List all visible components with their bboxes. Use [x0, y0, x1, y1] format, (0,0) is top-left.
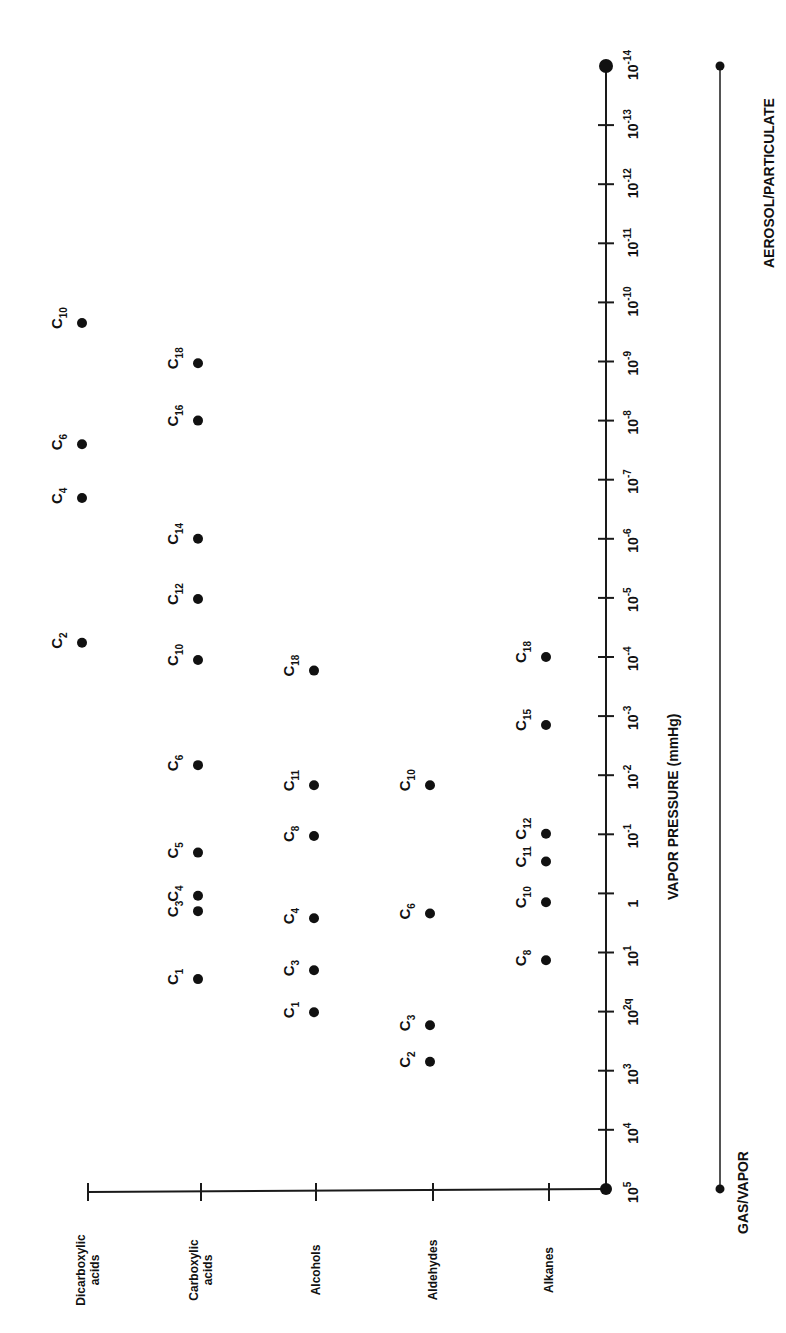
- data-point: [193, 906, 203, 916]
- aerosol-particulate-label: AEROSOL/PARTICULATE: [761, 98, 777, 268]
- point-label: C10: [512, 886, 533, 908]
- gas-end-dot: [716, 1184, 725, 1193]
- point-label: C8: [280, 825, 301, 842]
- point-label: C4: [164, 885, 185, 902]
- pressure-tick-label: 10-6: [622, 528, 641, 553]
- point-label: C18: [164, 347, 185, 369]
- point-label: C10: [396, 769, 417, 791]
- category-axis: [88, 1183, 606, 1201]
- data-point: [193, 760, 203, 770]
- data-point: [77, 318, 87, 328]
- pressure-tick-label: 10-10: [622, 286, 641, 316]
- data-point: [425, 1057, 435, 1067]
- series-alcohols: C1C3C4C8C11C18: [280, 654, 319, 1018]
- pressure-tick-label: 10-3: [622, 705, 641, 730]
- point-label: C2: [396, 1051, 417, 1068]
- pressure-tick-label: 10-13: [622, 109, 641, 139]
- pressure-tick-label: 104: [622, 1122, 641, 1144]
- point-label: C4: [48, 487, 69, 504]
- data-point: [193, 848, 203, 858]
- point-label: C12: [512, 817, 533, 839]
- series-carboxylic: C1C3C4C5C6C10C12C14C16C18: [164, 347, 203, 985]
- point-label: C8: [512, 949, 533, 966]
- data-point: [309, 913, 319, 923]
- category-axis-line: [88, 1189, 606, 1192]
- point-label: C6: [164, 754, 185, 771]
- phase-bar: [716, 62, 725, 1194]
- point-label: C6: [396, 903, 417, 920]
- point-label: C3: [280, 959, 301, 976]
- data-point: [425, 1020, 435, 1030]
- data-point: [541, 652, 551, 662]
- point-label: C10: [48, 307, 69, 329]
- data-point: [541, 856, 551, 866]
- gas-vapor-label: GAS/VAPOR: [735, 1151, 751, 1234]
- data-point: [425, 780, 435, 790]
- data-point: [193, 416, 203, 426]
- pressure-tick-label: 10-12: [622, 168, 641, 198]
- data-point: [193, 534, 203, 544]
- point-label: C4: [280, 907, 301, 924]
- category-label: Dicarboxylic: [74, 1234, 88, 1306]
- data-point: [309, 1007, 319, 1017]
- data-point: [309, 831, 319, 841]
- axis-end-dot: [599, 59, 613, 73]
- pressure-tick-label: 10-11: [622, 227, 641, 257]
- category-label: Aldehydes: [426, 1239, 440, 1300]
- category-labels: DicarboxylicacidsCarboxylicacidsAlcohols…: [74, 1234, 556, 1306]
- data-point: [309, 666, 319, 676]
- point-label: C15: [512, 709, 533, 731]
- point-label: C11: [512, 846, 533, 868]
- data-point: [193, 594, 203, 604]
- pressure-tick-label: 10-4: [622, 646, 641, 671]
- point-label: C3: [164, 900, 185, 917]
- pressure-tick-label: 1: [625, 899, 641, 907]
- vapor-pressure-chart: 105104103102q101110-110-210-310-410-510-…: [0, 0, 786, 1333]
- point-label: C1: [280, 1001, 301, 1018]
- pressure-axis: [598, 59, 614, 1195]
- pressure-tick-label: 101: [622, 945, 641, 967]
- data-point: [193, 655, 203, 665]
- data-point: [541, 720, 551, 730]
- category-label: acids: [88, 1254, 102, 1285]
- pressure-tick-label: 10-7: [622, 469, 641, 494]
- pressure-tick-label: 10-5: [622, 587, 641, 612]
- point-label: C11: [280, 769, 301, 791]
- data-point: [193, 358, 203, 368]
- data-point: [77, 638, 87, 648]
- series-aldehydes: C2C3C6C10: [396, 769, 435, 1068]
- category-label: Alkanes: [542, 1247, 556, 1293]
- point-label: C14: [164, 522, 185, 544]
- axis-end-dot: [600, 1183, 612, 1195]
- data-point: [77, 493, 87, 503]
- pressure-tick-label: 102q: [622, 998, 641, 1025]
- point-label: C6: [48, 433, 69, 450]
- category-label: acids: [201, 1254, 215, 1285]
- point-label: C12: [164, 583, 185, 605]
- data-point: [541, 829, 551, 839]
- point-label: C5: [164, 842, 185, 859]
- data-point: [425, 908, 435, 918]
- data-points: C2C4C6C10C1C3C4C5C6C10C12C14C16C18C1C3C4…: [48, 307, 551, 1068]
- point-label: C1: [164, 968, 185, 985]
- point-label: C10: [164, 644, 185, 666]
- point-label: C3: [396, 1014, 417, 1031]
- aerosol-end-dot: [716, 62, 725, 71]
- data-point: [541, 897, 551, 907]
- category-label: Alcohols: [309, 1244, 323, 1295]
- pressure-tick-label: 103: [622, 1063, 641, 1085]
- data-point: [193, 891, 203, 901]
- axis-title: VAPOR PRESSURE (mmHg): [665, 714, 681, 900]
- point-label: C18: [280, 654, 301, 676]
- series-dicarboxylic: C2C4C6C10: [48, 307, 87, 649]
- category-label: Carboxylic: [187, 1239, 201, 1301]
- data-point: [193, 974, 203, 984]
- point-label: C16: [164, 404, 185, 426]
- point-label: C2: [48, 632, 69, 649]
- pressure-tick-label: 10-2: [622, 764, 641, 789]
- pressure-tick-label: 105: [622, 1181, 641, 1203]
- pressure-tick-label: 10-8: [622, 410, 641, 435]
- pressure-tick-label: 10-9: [622, 351, 641, 376]
- data-point: [541, 955, 551, 965]
- pressure-tick-labels: 105104103102q101110-110-210-310-410-510-…: [622, 50, 641, 1203]
